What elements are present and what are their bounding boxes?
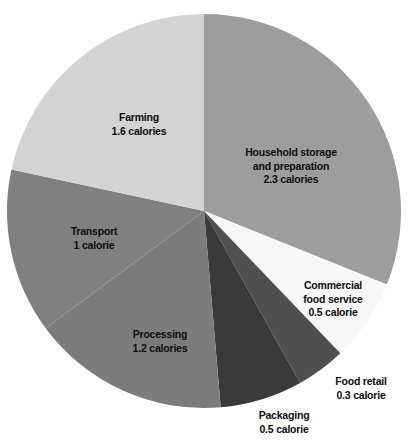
pie-chart-svg bbox=[0, 0, 409, 442]
pie-chart: Household storageand preparation2.3 calo… bbox=[0, 0, 409, 442]
pie-slices-group bbox=[7, 14, 401, 408]
